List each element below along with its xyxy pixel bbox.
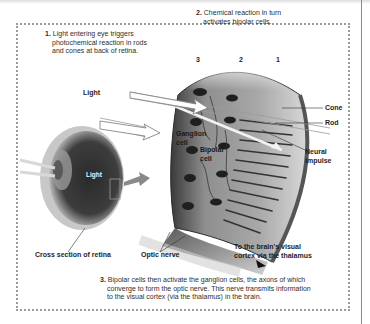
label-ganglion-cell: Ganglion cell xyxy=(176,130,206,147)
label-light: Light xyxy=(83,89,100,98)
step-1-number: 1. xyxy=(45,30,51,37)
label-optic-nerve: Optic nerve xyxy=(141,251,180,260)
step-1-line-1: Light entering eye triggers xyxy=(53,30,134,37)
step-3-line-1: Bipolar cells then activate the ganglion… xyxy=(108,276,305,283)
step-2-line-1: Chemical reaction in turn xyxy=(204,9,281,16)
layer-number-2: 2 xyxy=(239,56,243,65)
step-3-line-3: to the visual cortex (via the thalamus) … xyxy=(100,293,311,302)
step-3-caption: 3. Bipolar cells then activate the gangl… xyxy=(100,276,311,302)
label-bipolar-line-1: Bipolar xyxy=(200,146,224,155)
step-2-number: 2. xyxy=(196,9,202,16)
label-cross-section: Cross section of retina xyxy=(35,251,111,260)
label-neural-line-1: Neural xyxy=(305,148,331,157)
step-1-caption: 1. Light entering eye triggers photochem… xyxy=(45,30,147,56)
step-2-line-2: activates bipolar cells. xyxy=(196,18,281,27)
label-bipolar-cell: Bipolar cell xyxy=(200,146,224,163)
layer-number-1: 1 xyxy=(276,56,280,65)
label-to-brain-line-2: cortex via the thalamus xyxy=(234,252,312,261)
step-3-number: 3. xyxy=(100,276,106,283)
label-rod: Rod xyxy=(325,119,339,128)
label-bipolar-line-2: cell xyxy=(200,155,224,164)
step-2-caption: 2. Chemical reaction in turn activates b… xyxy=(196,9,281,26)
layer-number-3: 3 xyxy=(196,56,200,65)
step-1-line-3: and cones at back of retina. xyxy=(45,47,147,56)
label-cone: Cone xyxy=(325,104,343,113)
label-to-brain: To the brain's visual cortex via the tha… xyxy=(234,243,312,260)
step-1-line-2: photochemical reaction in rods xyxy=(45,39,147,48)
label-light-eye: Light xyxy=(86,171,102,180)
label-neural-line-2: impulse xyxy=(305,157,331,166)
label-to-brain-line-1: To the brain's visual xyxy=(234,243,312,252)
label-neural-impulse: Neural impulse xyxy=(305,148,331,165)
label-ganglion-line-1: Ganglion xyxy=(176,130,206,139)
eyeball-cross-section xyxy=(20,126,150,230)
step-3-line-2: converge to form the optic nerve. This n… xyxy=(100,285,311,294)
